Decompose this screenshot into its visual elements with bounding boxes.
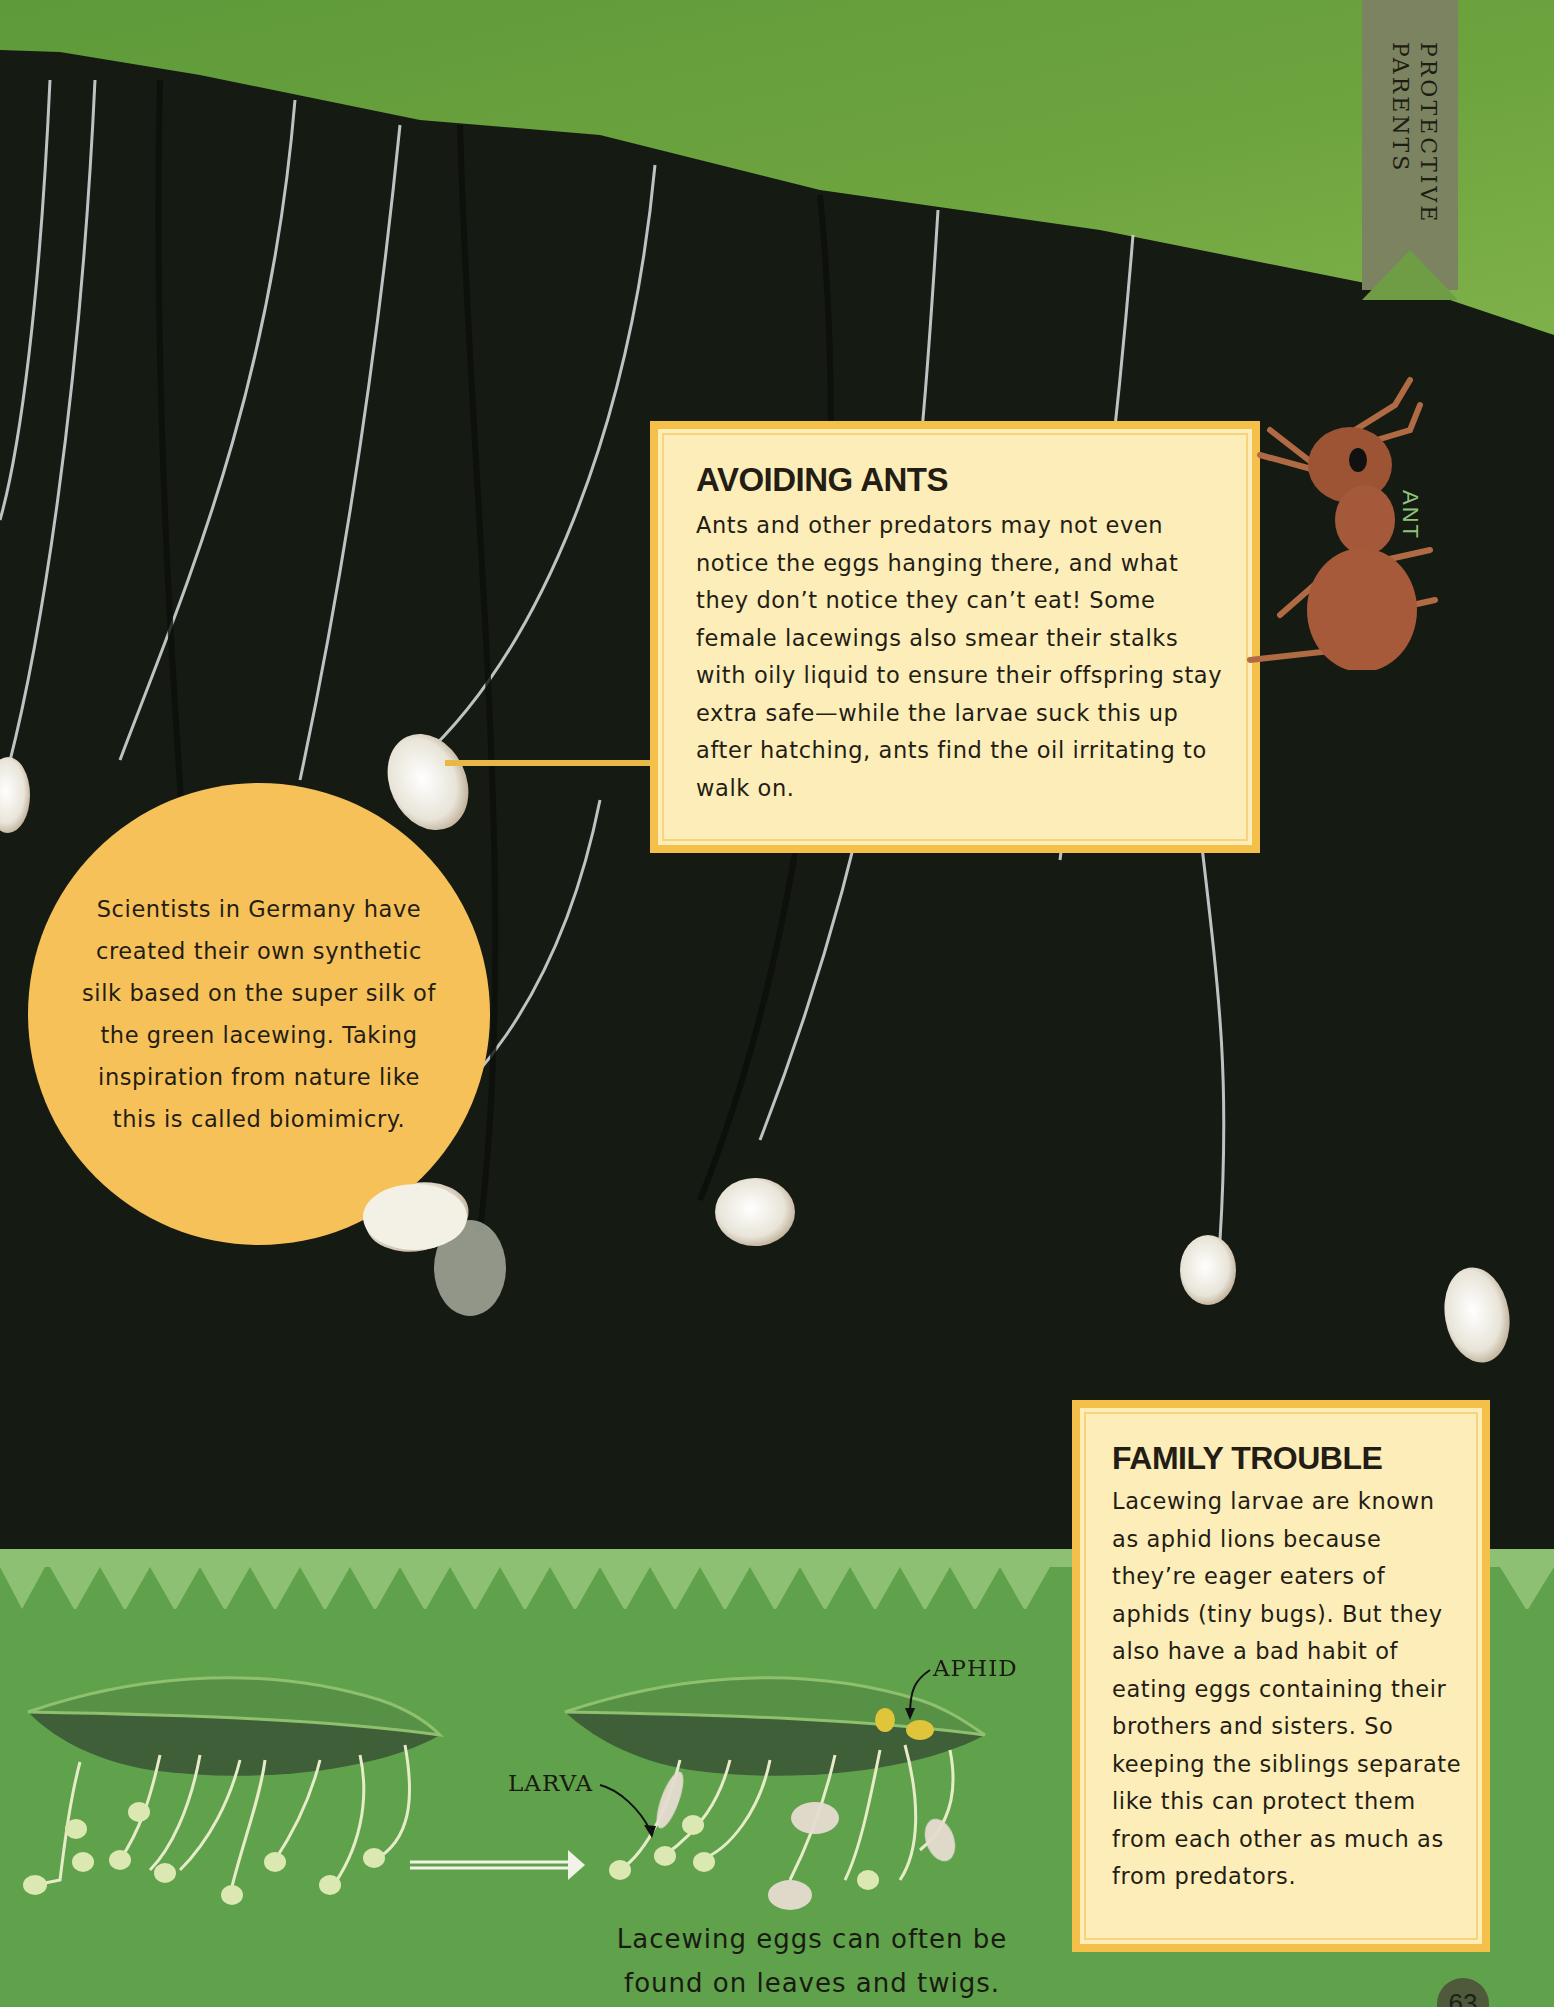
arrow-icon: [410, 1850, 585, 1880]
family-trouble-body: Lacewing larvae are known as aphid lions…: [1112, 1483, 1464, 1896]
aphid-label: APHID: [933, 1655, 1018, 1681]
illustration-caption: Lacewing eggs can often be found on leav…: [612, 1917, 1012, 2005]
fact-circle: Scientists in Germany have created their…: [28, 783, 490, 1245]
larva-label: LARVA: [508, 1770, 593, 1796]
ant-label: ANT: [1397, 490, 1423, 540]
avoiding-ants-box: AVOIDING ANTS Ants and other predators m…: [650, 421, 1260, 853]
tab-notch: [1362, 250, 1458, 300]
book-page: PROTECTIVE PARENTS AVOIDING ANTS Ants an…: [0, 0, 1554, 2007]
avoiding-ants-body: Ants and other predators may not even no…: [696, 507, 1224, 807]
avoiding-ants-title: AVOIDING ANTS: [696, 461, 1224, 499]
leaf-with-larvae: [565, 1670, 985, 1910]
family-trouble-title: FAMILY TROUBLE: [1112, 1440, 1464, 1477]
section-tab-label: PROTECTIVE PARENTS: [1378, 42, 1442, 242]
connector-line-ants: [445, 760, 650, 766]
egg-over-circle: [360, 1180, 470, 1260]
family-trouble-box: FAMILY TROUBLE Lacewing larvae are known…: [1072, 1400, 1490, 1952]
leaf-with-eggs: [23, 1678, 440, 1905]
fact-circle-text: Scientists in Germany have created their…: [74, 888, 444, 1140]
